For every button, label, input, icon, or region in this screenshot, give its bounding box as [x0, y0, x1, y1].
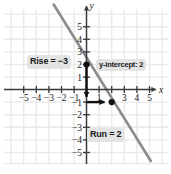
y-tick-label: −3: [72, 123, 82, 133]
y-tick-label: 3: [77, 47, 82, 57]
rise-callout: Rise = −3: [27, 55, 71, 69]
y-tick-label: −4: [72, 135, 82, 145]
y-intercept-callout: y-intercept: 2: [96, 59, 146, 71]
y-tick-label: 4: [77, 35, 82, 45]
y-tick-label: 5: [77, 22, 82, 32]
point-second: [109, 99, 115, 105]
y-tick-label: 2: [77, 60, 82, 70]
x-tick-label: −3: [44, 93, 54, 103]
run-callout: Run = 2: [87, 128, 124, 142]
y-tick-label: −1: [72, 98, 82, 108]
x-tick-label: 5: [147, 93, 152, 103]
coordinate-plane-svg: −5 −4 −3 −2 −1 1 3 4 5 5 4 3 2 1 −1 −2 −…: [0, 0, 171, 174]
point-y-intercept: [83, 61, 89, 67]
x-axis-label: x: [158, 85, 164, 95]
y-tick-label: −2: [72, 110, 82, 120]
y-tick-label: 1: [77, 73, 82, 83]
y-axis-label: y: [89, 1, 95, 11]
x-tick-label: −2: [56, 93, 66, 103]
x-tick-label: −5: [19, 93, 29, 103]
graph-figure: −5 −4 −3 −2 −1 1 3 4 5 5 4 3 2 1 −1 −2 −…: [0, 0, 171, 174]
x-tick-label: −4: [31, 93, 41, 103]
x-tick-label: 3: [122, 93, 127, 103]
y-tick-label: −5: [72, 148, 82, 158]
x-tick-label: 4: [135, 93, 140, 103]
